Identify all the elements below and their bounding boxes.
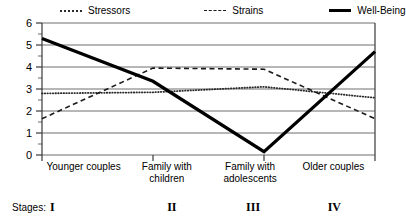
y-tick-label-4: 4 bbox=[26, 62, 32, 73]
y-tick-label-3: 3 bbox=[26, 84, 32, 95]
y-axis-labels: 6 5 4 3 2 1 0 bbox=[0, 0, 38, 224]
legend-label-well-being: Well-Being bbox=[357, 6, 405, 16]
y-tick-label-5: 5 bbox=[26, 40, 32, 51]
stage-label-iv: IV bbox=[294, 200, 375, 214]
stage-label-ii: II bbox=[131, 200, 212, 214]
dashed-line-icon bbox=[204, 6, 226, 16]
series-line-well-being bbox=[42, 38, 375, 151]
x-axis-labels: Younger couples Family with children Fam… bbox=[42, 161, 375, 195]
x-label-older-couples: Older couples bbox=[292, 161, 375, 195]
stages-row: Stages: I II III IV bbox=[0, 200, 390, 220]
dotted-line-icon bbox=[60, 6, 82, 16]
y-tick-label-2: 2 bbox=[26, 106, 32, 117]
y-tick-label-0: 0 bbox=[26, 150, 32, 161]
legend-item-strains: Strains bbox=[204, 6, 263, 16]
solid-line-icon bbox=[329, 6, 351, 16]
stage-label-i: I bbox=[42, 200, 131, 214]
legend-item-stressors: Stressors bbox=[60, 6, 130, 16]
data-series-group bbox=[42, 38, 375, 151]
y-tick-label-6: 6 bbox=[26, 18, 32, 29]
legend-item-well-being: Well-Being bbox=[329, 6, 405, 16]
y-tick-label-1: 1 bbox=[26, 128, 32, 139]
stages-caption: Stages: bbox=[12, 202, 46, 214]
legend-label-stressors: Stressors bbox=[88, 6, 130, 16]
gridlines bbox=[42, 23, 375, 155]
x-label-family-with-adolescents: Family with adolescents bbox=[209, 161, 292, 195]
chart-legend: Stressors Strains Well-Being bbox=[42, 2, 375, 20]
stages-items: I II III IV bbox=[42, 200, 375, 214]
stage-label-iii: III bbox=[213, 200, 294, 214]
x-label-family-with-children: Family with children bbox=[125, 161, 208, 195]
x-label-younger-couples: Younger couples bbox=[42, 161, 125, 195]
legend-label-strains: Strains bbox=[232, 6, 263, 16]
